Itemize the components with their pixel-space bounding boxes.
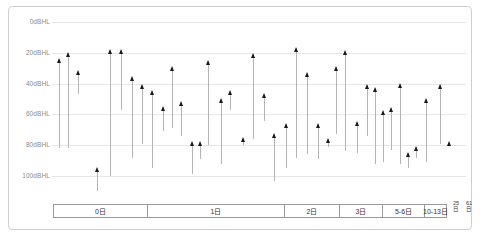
x-category-cell: 2日 <box>285 204 340 218</box>
x-axis-categories: 0日1日2日3日5-6日10-13日 <box>53 204 447 218</box>
x-tail-label: 25日 <box>450 200 462 212</box>
x-category-cell: 3日 <box>340 204 383 218</box>
x-category-cell: 10-13日 <box>425 204 447 218</box>
chart-screenshot: 0dBHL20dBHL40dBHL60dBHL80dBHL100dBHL 0日1… <box>0 0 484 239</box>
x-category-cell: 5-6日 <box>383 204 425 218</box>
x-category-cell: 1日 <box>148 204 285 218</box>
chart-frame <box>8 6 472 230</box>
x-category-cell: 0日 <box>53 204 148 218</box>
x-tail-label: 61日 <box>463 200 475 212</box>
